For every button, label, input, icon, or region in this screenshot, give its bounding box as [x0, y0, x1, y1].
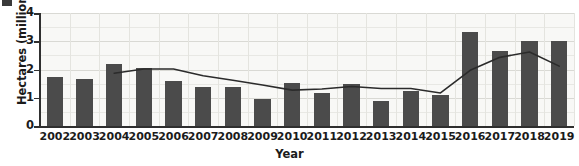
x-axis-tick-label: 2013 — [366, 130, 397, 143]
x-axis-tick-label: 2017 — [485, 130, 516, 143]
y-axis-tick-label: 1 — [20, 92, 34, 104]
x-axis-tick-label: 2018 — [514, 130, 545, 143]
x-axis-title: Year — [0, 147, 579, 161]
y-axis-tick-mark — [34, 70, 39, 72]
y-axis-tick-mark — [34, 41, 39, 43]
y-axis-tick-label: 4 — [20, 7, 34, 19]
x-axis-tick-label: 2006 — [158, 130, 189, 143]
y-axis-tick-labels: 01234 — [20, 0, 34, 166]
y-axis-tick-mark — [34, 126, 39, 128]
x-axis-tick-label: 2014 — [396, 130, 427, 143]
gridline-vertical — [574, 13, 575, 126]
x-axis-line — [39, 126, 574, 128]
y-axis-tick-mark — [34, 98, 39, 100]
y-axis-tick-label: 0 — [20, 120, 34, 132]
y-axis-tick-label: 3 — [20, 35, 34, 47]
x-axis-tick-label: 2007 — [188, 130, 219, 143]
y-axis-line — [39, 13, 41, 127]
x-axis-tick-label: 2009 — [247, 130, 278, 143]
crop-artifact-mark — [2, 0, 12, 6]
x-axis-tick-label: 2005 — [129, 130, 160, 143]
x-axis-tick-label: 2012 — [336, 130, 367, 143]
trend-line-series — [40, 13, 574, 126]
x-axis-tick-label: 2010 — [277, 130, 308, 143]
x-axis-tick-label: 2008 — [218, 130, 249, 143]
y-axis-tick-label: 2 — [20, 64, 34, 76]
x-axis-tick-label: 2019 — [544, 130, 575, 143]
x-axis-tick-label: 2015 — [425, 130, 456, 143]
x-axis-tick-label: 2004 — [99, 130, 130, 143]
x-axis-tick-label: 2011 — [307, 130, 338, 143]
x-axis-tick-label: 2003 — [69, 130, 100, 143]
x-axis-tick-label: 2002 — [40, 130, 71, 143]
trend-line-path — [114, 52, 559, 93]
y-axis-tick-mark — [34, 13, 39, 15]
x-axis-tick-label: 2016 — [455, 130, 486, 143]
bar-chart: Hectares (millions) 01234 20022003200420… — [0, 0, 579, 166]
